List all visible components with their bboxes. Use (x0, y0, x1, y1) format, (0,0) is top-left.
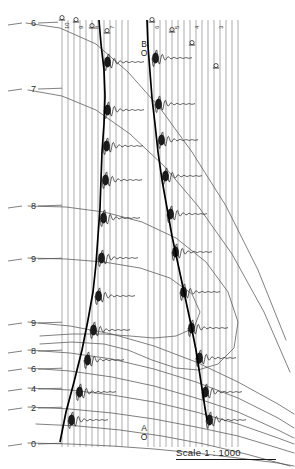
axis-label-8: 2 (22, 404, 36, 413)
scale-annotation: Scale 1 : 1000 (176, 447, 282, 460)
wiggle-burst-right-peak-2 (158, 135, 165, 146)
wiggle-burst-left-peak-6 (95, 291, 102, 302)
axis-leader-8 (8, 408, 22, 410)
record-section-plot (0, 0, 295, 469)
axis-leader-9 (8, 444, 22, 446)
axis-leader-2 (8, 206, 22, 208)
axis-leader-right-4 (38, 322, 62, 323)
trace-top-ring-0 (60, 16, 64, 20)
wiggle-burst-left-peak-9 (76, 387, 83, 398)
pick-curve-right (147, 20, 207, 420)
wiggle-burst-left-peak-10 (68, 415, 75, 426)
top-station-label-5: 5 (174, 26, 180, 29)
shotpoint-A-symbol: O (137, 433, 151, 442)
axis-label-6: 6 (22, 365, 36, 374)
axis-label-2: 8 (22, 202, 36, 211)
axis-leader-right-2 (38, 205, 62, 206)
curve-9a (28, 258, 200, 338)
seismic-record-section-figure: 6789986420 109876543 BOAO Scale 1 : 1000 (0, 0, 295, 469)
axis-label-0: 6 (22, 19, 36, 28)
scale-underline (176, 459, 276, 460)
axis-leader-5 (8, 351, 22, 353)
top-station-label-6: 4 (194, 26, 200, 29)
top-station-label-2: 8 (94, 26, 100, 29)
axis-leader-4 (8, 323, 22, 325)
axis-label-5: 8 (22, 347, 36, 356)
wiggle-burst-left-peak-7 (90, 325, 97, 336)
axis-label-4: 9 (22, 319, 36, 328)
curve-6 (26, 23, 286, 340)
top-station-label-1: 9 (78, 26, 84, 29)
curve-8 (28, 206, 238, 370)
wiggle-burst-left-peak-3 (102, 175, 109, 186)
shotpoint-A: AO (137, 424, 151, 442)
axis-leader-0 (8, 23, 22, 25)
trace-top-ring-6 (190, 41, 194, 45)
axis-leader-right-6 (38, 368, 62, 369)
wiggle-burst-left-peak-2 (103, 141, 110, 152)
wiggle-burst-right-peak-3 (162, 171, 169, 182)
axis-leader-right-1 (38, 88, 62, 89)
axis-leader-7 (8, 389, 22, 391)
axis-leader-1 (8, 89, 22, 91)
top-station-label-4: 6 (154, 26, 160, 29)
trace-top-ring-4 (150, 18, 154, 22)
top-station-label-7: 3 (218, 26, 224, 29)
wiggle-burst-left-peak-8 (84, 355, 91, 366)
trace-top-ring-7 (214, 64, 218, 68)
wiggle-burst-right-peak-1 (155, 99, 162, 110)
top-station-label-3: 7 (109, 26, 115, 29)
wiggle-burst-left-peak-5 (98, 253, 105, 264)
wiggle-burst-right-peak-0 (152, 53, 159, 64)
axis-label-3: 9 (22, 255, 36, 264)
axis-label-9: 0 (22, 440, 36, 449)
trace-top-ring-1 (74, 18, 78, 22)
curve-7 (28, 90, 290, 372)
trace-lines-left-group (62, 20, 128, 447)
axis-leader-6 (8, 369, 22, 371)
wiggle-burst-left-peak-0 (104, 57, 111, 68)
wiggle-trace-bursts-group (68, 50, 246, 429)
wiggle-burst-left-peak-4 (100, 213, 107, 224)
trace-lines-right-group (148, 20, 238, 447)
scale-text: Scale 1 : 1000 (176, 447, 282, 458)
axis-leader-right-5 (38, 350, 62, 351)
axis-label-7: 4 (22, 385, 36, 394)
axis-leader-right-0 (38, 22, 58, 23)
axis-leader-3 (8, 259, 22, 261)
trace-top-ring-3 (105, 29, 109, 33)
shotpoint-B: BO (137, 40, 151, 58)
shotpoint-B-symbol: O (137, 49, 151, 58)
axis-label-1: 7 (22, 85, 36, 94)
top-station-label-0: 10 (64, 22, 70, 29)
